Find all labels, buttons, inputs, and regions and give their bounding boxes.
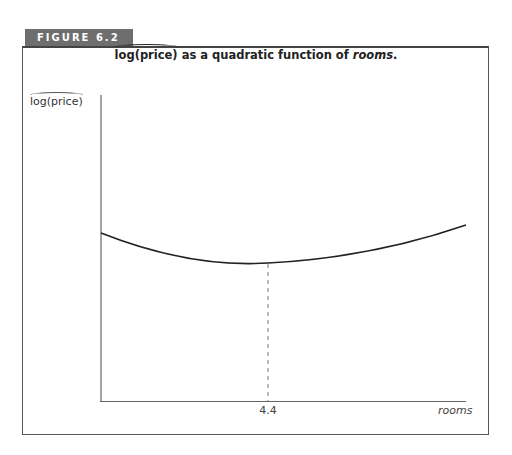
- x-axis-label: rooms: [438, 404, 472, 417]
- y-axis-label: log(price): [30, 95, 83, 108]
- y-axis-label-hat: log(price): [30, 95, 83, 108]
- plot-area: [0, 0, 512, 455]
- x-tick-label-4-4: 4.4: [259, 404, 277, 417]
- quadratic-curve: [101, 225, 466, 264]
